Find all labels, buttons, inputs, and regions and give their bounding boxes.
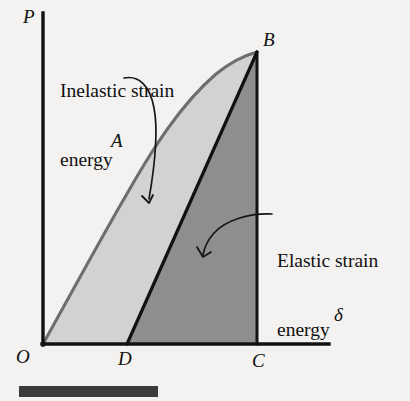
elastic-strain-energy-label: Elastic strain energy (277, 203, 378, 387)
elastic-label-line-2: energy (277, 318, 378, 341)
strain-energy-figure: P δ O A B C D Inelastic strain energy El… (0, 0, 410, 401)
point-label-c: C (252, 350, 265, 372)
point-label-d: D (118, 348, 132, 370)
inelastic-strain-energy-label: Inelastic strain energy (60, 33, 174, 217)
y-axis-label: P (23, 6, 35, 28)
inelastic-label-line-2: energy (60, 148, 174, 171)
inelastic-label-line-1: Inelastic strain (60, 79, 174, 102)
bottom-bar (19, 386, 158, 397)
point-label-o: O (16, 346, 30, 368)
elastic-label-line-1: Elastic strain (277, 249, 378, 272)
point-label-b: B (263, 29, 275, 51)
